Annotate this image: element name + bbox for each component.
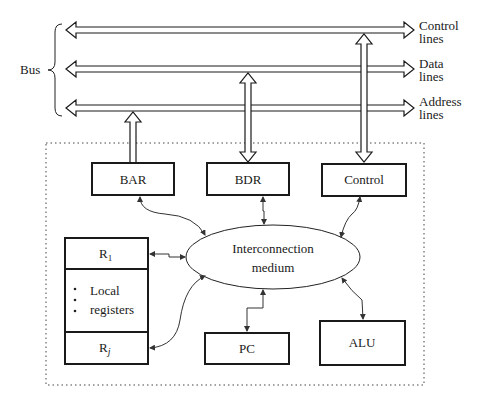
data-lines-bus: Data lines: [66, 56, 444, 84]
local-registers-label-1: Local: [90, 283, 120, 298]
bus-interface-diagram: Bus Control lines Data lines Address lin…: [0, 0, 482, 404]
pc-label: PC: [239, 341, 255, 356]
interconnect-label-1: Interconnection: [232, 241, 314, 256]
wire-pc: [247, 290, 263, 331]
bar-to-address-connector: [125, 112, 141, 163]
wire-control: [341, 197, 360, 237]
control-label: Control: [344, 172, 384, 187]
bus-label-group: Bus: [20, 24, 62, 116]
wire-bdr: [263, 197, 264, 224]
ellipsis-dot: [74, 288, 77, 291]
bar-block: BAR: [92, 163, 174, 195]
bdr-block: BDR: [207, 163, 289, 195]
data-to-bdr-connector: [240, 73, 256, 162]
control-lines-bus: Control lines: [66, 18, 459, 46]
ellipsis-dot: [74, 299, 77, 302]
address-lines-label-2: lines: [419, 107, 444, 122]
alu-label: ALU: [349, 335, 376, 350]
wire-alu: [342, 278, 363, 319]
control-lines-label-2: lines: [419, 31, 444, 46]
wire-r1: [150, 254, 185, 257]
data-lines-label-2: lines: [419, 69, 444, 84]
ellipsis-dot: [74, 310, 77, 313]
bus-label: Bus: [20, 62, 40, 77]
wire-bar: [140, 197, 205, 235]
pc-block: PC: [205, 333, 289, 364]
register-file: R1 Local registers Rj: [65, 238, 148, 364]
wire-rj: [150, 276, 205, 348]
interconnection-medium: Interconnection medium: [186, 225, 360, 289]
control-block: Control: [322, 164, 406, 196]
bar-label: BAR: [120, 172, 147, 187]
bdr-label: BDR: [235, 172, 262, 187]
alu-block: ALU: [320, 321, 405, 365]
control-to-control-connector: [356, 34, 372, 162]
local-registers-label-2: registers: [90, 302, 134, 317]
brace-icon: [48, 24, 62, 116]
interconnect-label-2: medium: [252, 260, 295, 275]
address-lines-bus: Address lines: [66, 94, 462, 122]
